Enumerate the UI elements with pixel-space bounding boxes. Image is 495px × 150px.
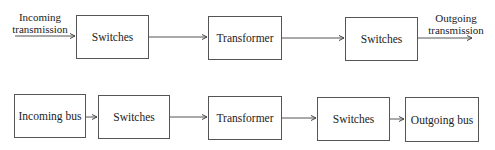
outgoing-transmission-label: Outgoing transmission	[419, 12, 493, 36]
box-label: Transformer	[216, 112, 273, 124]
box-label: Incoming bus	[19, 110, 82, 122]
box-label: Outgoing bus	[411, 114, 473, 126]
incoming-label-line1: Incoming	[10, 11, 70, 23]
outgoing-bus-box: Outgoing bus	[405, 97, 479, 142]
box-label: Switches	[333, 113, 375, 125]
box-label: Transformer	[216, 32, 273, 44]
switches-box-1: Switches	[76, 15, 149, 59]
outgoing-label-line1: Outgoing	[419, 12, 493, 24]
transformer-box-2: Transformer	[208, 96, 282, 140]
box-label: Switches	[113, 111, 155, 123]
switches-box-2: Switches	[345, 17, 418, 61]
incoming-transmission-label: Incoming transmission	[10, 11, 70, 35]
box-label: Switches	[361, 33, 403, 45]
switches-box-4: Switches	[317, 97, 390, 141]
incoming-label-line2: transmission	[10, 23, 70, 35]
incoming-bus-box: Incoming bus	[14, 94, 86, 138]
box-label: Switches	[92, 31, 134, 43]
outgoing-label-line2: transmission	[419, 24, 493, 36]
switches-box-3: Switches	[98, 95, 170, 139]
transformer-box-1: Transformer	[208, 16, 282, 60]
